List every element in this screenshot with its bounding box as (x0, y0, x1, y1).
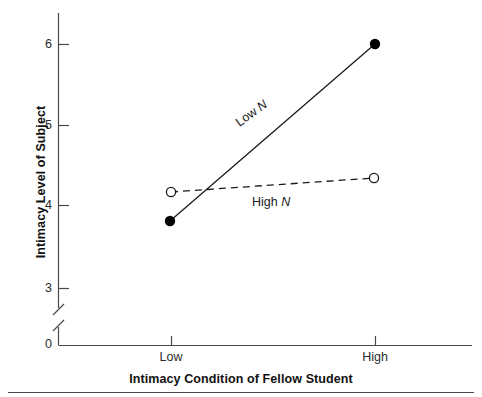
datapoint-low-n-high (370, 39, 380, 49)
figure-bottom-rule (8, 392, 474, 393)
datapoint-high-n-low (166, 187, 175, 196)
series-line-high-n (171, 178, 374, 192)
y-tick-label-0: 0 (30, 337, 52, 351)
series-label-high-n-text: High (252, 195, 281, 209)
chart-figure: 6 5 4 3 0 Low High Intimacy Level of Sub… (0, 0, 482, 397)
chart-plot-area (0, 0, 482, 397)
y-axis-title: Intimacy Level of Subject (34, 97, 48, 267)
x-axis-title: Intimacy Condition of Fellow Student (0, 372, 482, 386)
y-tick-label-6: 6 (30, 37, 52, 51)
series-label-high-n-italic: N (281, 195, 290, 209)
datapoint-high-n-high (369, 173, 378, 182)
series-label-high-n: High N (252, 195, 290, 209)
y-tick-label-3: 3 (30, 281, 52, 295)
x-tick-label-high: High (340, 350, 410, 364)
x-tick-label-low: Low (136, 350, 206, 364)
datapoint-low-n-low (165, 216, 175, 226)
